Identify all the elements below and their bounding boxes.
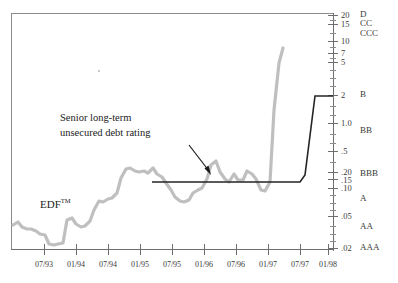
y-tick-label-1-0: 1.0 <box>341 119 352 128</box>
y-tick-label-5: 5 <box>341 58 345 67</box>
x-tick-label-6: 07/96 <box>219 261 253 269</box>
y-tick-label-p05: .05 <box>341 212 352 221</box>
y-tick-label-p10: .10 <box>341 184 352 193</box>
x-tick-label-5: 01/96 <box>187 261 221 269</box>
x-tick-label-9: 01/98 <box>311 261 345 269</box>
annotation-arrow <box>189 145 211 175</box>
x-tick-label-0: 07/93 <box>27 261 61 269</box>
y-tick-label-p5: .5 <box>341 147 347 156</box>
y-tick-label-15: 15 <box>341 20 350 29</box>
edf-trademark-superscript: TM <box>61 197 71 204</box>
rating-label-ccc: CCC <box>360 29 378 38</box>
y-tick-label-10: 10 <box>341 37 350 46</box>
x-tick-label-2: 07/94 <box>91 261 125 269</box>
rating-label-aa: AA <box>360 222 373 231</box>
rating-step-line <box>152 96 333 182</box>
x-tick-label-3: 01/95 <box>123 261 157 269</box>
edf-series-label-text: EDF <box>40 198 61 210</box>
x-tick-label-7: 01/97 <box>251 261 285 269</box>
edf-series-label: EDFTM <box>40 198 71 210</box>
rating-label-bbb: BBB <box>360 169 378 178</box>
speck-artifact <box>98 70 100 72</box>
chart-container: 20 15 10 7 5 2 1.0 .5 .20 .15 .10 .05 .0… <box>0 0 398 283</box>
y-tick-label-2: 2 <box>341 91 345 100</box>
edf-series-line <box>13 48 283 245</box>
edf-vs-rating-chart <box>0 0 398 283</box>
x-tick-label-1: 01/94 <box>59 261 93 269</box>
x-tick-label-4: 07/95 <box>155 261 189 269</box>
annotation-line-1: Senior long-term <box>60 111 131 125</box>
rating-label-aaa: AAA <box>360 243 380 252</box>
y-tick-label-p02: .02 <box>341 244 352 253</box>
rating-label-a: A <box>360 194 367 203</box>
rating-label-b: B <box>360 90 366 99</box>
rating-label-bb: BB <box>360 126 372 135</box>
rating-label-cc: CC <box>360 19 372 28</box>
annotation-line-2: unsecured debt rating <box>60 126 150 140</box>
